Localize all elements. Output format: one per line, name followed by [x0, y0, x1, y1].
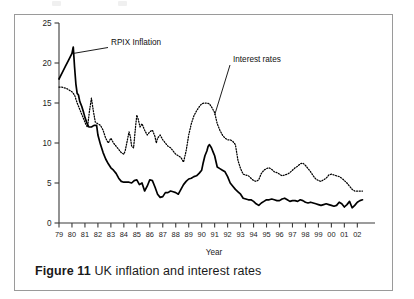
x-axis-tick-label: 90	[198, 230, 206, 239]
x-axis-tick-label: 79	[55, 230, 63, 239]
x-axis-tick-label: 87	[159, 230, 167, 239]
scan-artifact	[0, 0, 414, 9]
x-axis-tick-label: 92	[224, 230, 232, 239]
annotation-leader-rpix-inflation	[74, 48, 108, 54]
x-axis-tick-label: 82	[94, 230, 102, 239]
x-axis-tick-label: 96	[275, 230, 283, 239]
x-axis-tick-label: 80	[68, 230, 76, 239]
y-axis-tick-label: 0	[47, 219, 52, 228]
y-axis-tick-label: 5	[47, 179, 52, 188]
annotation-label-rpix-inflation: RPIX Inflation	[111, 38, 162, 47]
series-line-interest-rates	[59, 87, 363, 191]
chart-plot-area: 0510152025798081828384858687888990919293…	[15, 15, 392, 255]
x-axis-tick-label: 01	[340, 230, 348, 239]
y-axis-tick-label: 10	[42, 139, 52, 148]
figure-caption-label: Figure 11	[35, 264, 91, 278]
x-axis-tick-label: 02	[353, 230, 361, 239]
x-axis-tick-label: 89	[185, 230, 193, 239]
x-axis-tick-label: 81	[81, 230, 89, 239]
x-axis-tick-label: 95	[262, 230, 270, 239]
x-axis-tick-label: 86	[146, 230, 154, 239]
x-axis-tick-label: 88	[172, 230, 180, 239]
x-axis-tick-label: 97	[288, 230, 296, 239]
x-axis-title: Year	[206, 248, 223, 255]
x-axis-tick-label: 84	[120, 230, 128, 239]
x-axis-tick-label: 93	[236, 230, 244, 239]
x-axis-tick-label: 85	[133, 230, 141, 239]
figure-caption: Figure 11 UK inflation and interest rate…	[35, 264, 261, 278]
x-axis-tick-label: 83	[107, 230, 115, 239]
y-axis-tick-label: 20	[42, 59, 52, 68]
x-axis-tick-label: 91	[211, 230, 219, 239]
x-axis-tick-label: 98	[301, 230, 309, 239]
annotation-label-interest-rates: Interest rates	[233, 55, 281, 64]
series-line-rpix-inflation	[59, 47, 363, 208]
annotation-leader-interest-rates	[215, 65, 230, 115]
y-axis-tick-label: 15	[42, 99, 52, 108]
x-axis-tick-label: 00	[327, 230, 335, 239]
figure-caption-text: UK inflation and interest rates	[94, 264, 261, 278]
figure-container: 0510152025798081828384858687888990919293…	[14, 14, 393, 291]
line-chart: 0510152025798081828384858687888990919293…	[15, 15, 392, 255]
figure-page: 0510152025798081828384858687888990919293…	[0, 0, 414, 299]
x-axis-tick-label: 99	[314, 230, 322, 239]
x-axis-tick-label: 94	[249, 230, 257, 239]
y-axis-tick-label: 25	[42, 19, 52, 28]
